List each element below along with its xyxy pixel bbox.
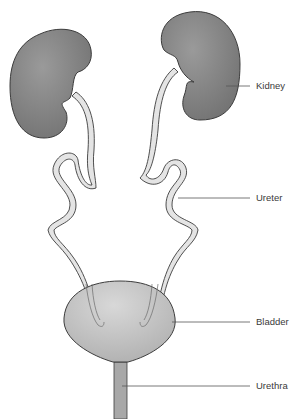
bladder — [64, 281, 175, 362]
right-kidney — [161, 12, 240, 120]
urinary-system-diagram — [0, 0, 292, 419]
left-kidney — [10, 29, 91, 138]
bladder-label: Bladder — [256, 317, 289, 327]
ureter-label: Ureter — [256, 193, 282, 203]
urethra-label: Urethra — [256, 381, 288, 391]
urethra — [114, 362, 127, 419]
kidney-label: Kidney — [256, 81, 285, 91]
